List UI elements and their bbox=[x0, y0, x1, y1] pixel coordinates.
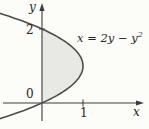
equation-label: x = 2y − y2 bbox=[77, 30, 143, 45]
parabola-figure: y x 2 0 1 x = 2y − y2 bbox=[0, 0, 149, 129]
equation-base: x = 2y − y bbox=[77, 31, 138, 45]
y-axis-arrow-icon bbox=[39, 3, 44, 11]
figure-canvas: y x 2 0 1 x = 2y − y2 bbox=[0, 0, 149, 129]
y-tick-2-label: 2 bbox=[26, 23, 34, 37]
y-axis-label: y bbox=[28, 0, 36, 14]
equation-superscript: 2 bbox=[137, 30, 143, 39]
x-axis-label: x bbox=[133, 105, 140, 119]
x-tick-1-label: 1 bbox=[80, 106, 88, 120]
origin-label: 0 bbox=[26, 87, 34, 101]
